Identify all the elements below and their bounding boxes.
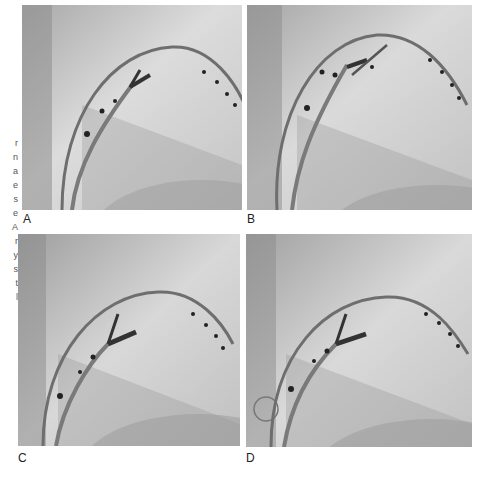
fluoroscopy-image bbox=[22, 5, 242, 210]
fluoro-panel-a bbox=[22, 5, 242, 210]
caption-fragment: e bbox=[6, 178, 18, 192]
fluoro-panel-d bbox=[246, 234, 472, 447]
caption-fragment: a bbox=[6, 164, 18, 178]
caption-fragment: A bbox=[6, 220, 18, 234]
caption-fragment: l bbox=[6, 290, 18, 304]
caption-fragment: t bbox=[6, 276, 18, 290]
panel-label-b: B bbox=[247, 212, 255, 226]
panel-label-c: C bbox=[18, 451, 27, 465]
caption-fragment: s bbox=[6, 262, 18, 276]
caption-fragment: y bbox=[6, 248, 18, 262]
fluoroscopy-image bbox=[247, 5, 472, 210]
fluoro-panel-b bbox=[247, 5, 472, 210]
panel-label-d: D bbox=[246, 451, 255, 465]
caption-fragment: e bbox=[6, 206, 18, 220]
fluoroscopy-image bbox=[246, 234, 472, 447]
caption-fragment: r bbox=[6, 234, 18, 248]
caption-fragment: n bbox=[6, 150, 18, 164]
caption-fragment: r bbox=[6, 136, 18, 150]
caption-fragment: s bbox=[6, 192, 18, 206]
panel-label-a: A bbox=[23, 212, 31, 226]
fluoroscopy-image bbox=[18, 234, 240, 446]
fluoro-panel-c bbox=[18, 234, 240, 446]
cropped-caption-text: r n a e s e A r y s t l bbox=[6, 136, 18, 304]
